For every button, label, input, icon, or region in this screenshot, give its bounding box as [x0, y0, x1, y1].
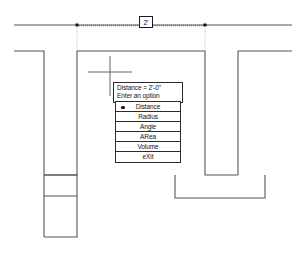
option-item-volume[interactable]: Volume	[116, 142, 180, 152]
wall-center-left	[44, 51, 77, 175]
option-item-exit[interactable]: eXit	[116, 152, 180, 162]
selected-bullet-icon	[121, 106, 125, 110]
tooltip-distance-readout: Distance = 2'-0"	[117, 84, 179, 92]
option-item-angle[interactable]: Angle	[116, 122, 180, 132]
option-item-label: Angle	[140, 123, 156, 130]
dimension-label[interactable]: 2'	[139, 16, 153, 28]
wall-left-outer	[14, 51, 44, 237]
wall-lower-right-tee	[175, 175, 265, 198]
tooltip-prompt: Enter an option	[117, 92, 179, 100]
option-item-label: eXit	[143, 153, 154, 160]
wall-center-right	[205, 51, 238, 175]
option-item-label: Distance	[136, 103, 161, 110]
wall-lower-left-base	[44, 196, 77, 237]
option-item-label: Radius	[138, 113, 158, 120]
option-item-radius[interactable]: Radius	[116, 112, 180, 122]
cad-application-window: 2' Distance = 2'-0" Enter an option Dist…	[0, 0, 306, 255]
option-item-area[interactable]: ARea	[116, 132, 180, 142]
option-dropdown-menu[interactable]: Distance Radius Angle ARea Volume eXit	[115, 101, 181, 163]
wall-lower-left-step	[44, 175, 77, 196]
command-tooltip: Distance = 2'-0" Enter an option	[113, 82, 183, 103]
option-item-label: Volume	[137, 143, 158, 150]
option-item-label: ARea	[140, 133, 156, 140]
option-item-distance[interactable]: Distance	[116, 102, 180, 112]
wall-right-outer	[238, 51, 292, 175]
